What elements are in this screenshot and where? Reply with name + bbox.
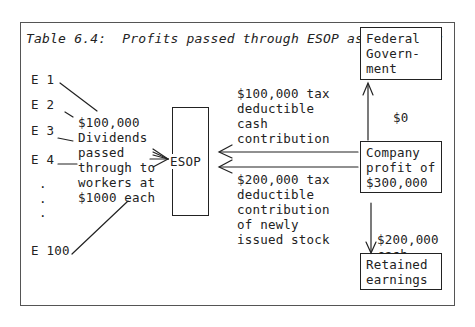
employee-1-line: [60, 83, 97, 111]
employee-100-line: [72, 201, 128, 254]
connector-lines: [0, 0, 475, 327]
employee-2-line: [65, 112, 73, 117]
employee-3-line: [58, 138, 73, 141]
